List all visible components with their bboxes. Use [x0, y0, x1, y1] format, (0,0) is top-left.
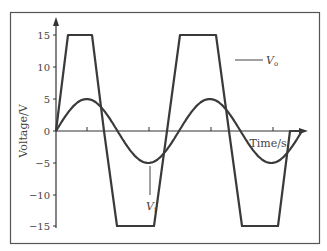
vi-label: Vi [146, 200, 157, 214]
y-tick-label-minus5: −5 [35, 158, 50, 169]
y-axis-label: Voltage/V [17, 103, 30, 158]
y-tick-label-10: 10 [37, 62, 50, 73]
y-tick-label-5: 5 [44, 94, 50, 105]
x-axis-label: Time/s [249, 137, 287, 150]
y-tick-label-15: 15 [37, 30, 50, 41]
y-tick-label-0: 0 [44, 126, 50, 137]
y-tick-label-minus10: −10 [29, 190, 50, 201]
y-tick-label-minus15: −15 [29, 221, 50, 232]
voltage-time-chart: 15 10 5 0 −5 −10 −15 Voltage/V Time/s Vo… [0, 0, 327, 251]
y-axis-arrow-icon [53, 17, 59, 26]
vo-label: Vo [266, 54, 278, 68]
